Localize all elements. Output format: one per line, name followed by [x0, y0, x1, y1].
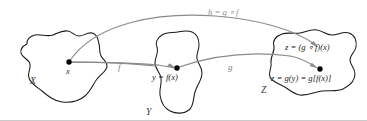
diagram-canvas: h = g ∘ f X Y Z x y = f(x) z = (g ∘ f)(x… [0, 0, 367, 121]
set-x-boundary [21, 31, 107, 102]
label-h-composite: h = g ∘ f [208, 7, 240, 17]
label-point-y: y = f(x) [151, 72, 178, 82]
label-set-y: Y [146, 107, 153, 117]
point-x-dot [66, 59, 71, 64]
arrow-g-tail2 [290, 56, 314, 66]
set-z-boundary [269, 30, 356, 95]
point-z-dot [317, 66, 322, 71]
label-map-g: g [228, 62, 233, 72]
label-point-x: x [65, 66, 70, 76]
label-point-z-expanded: z = g(y) = g[f(x)] [270, 73, 331, 83]
function-composition-diagram: h = g ∘ f X Y Z x y = f(x) z = (g ∘ f)(x… [0, 0, 367, 121]
bottom-border [0, 120, 367, 121]
label-set-z: Z [261, 85, 267, 95]
label-point-z-composite: z = (g ∘ f)(x) [284, 42, 330, 52]
arrow-g [176, 54, 290, 68]
label-set-x: X [29, 76, 37, 86]
point-y-dot [174, 65, 179, 70]
